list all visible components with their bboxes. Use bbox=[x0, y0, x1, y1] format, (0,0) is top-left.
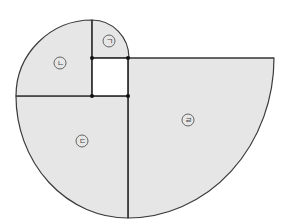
vertex-dot bbox=[126, 94, 130, 98]
region-rieul bbox=[128, 58, 274, 218]
center-square bbox=[92, 58, 128, 96]
label-text: ㄹ bbox=[185, 116, 192, 125]
vertex-dot bbox=[126, 56, 130, 60]
vertex-dot bbox=[90, 56, 94, 60]
spiral-diagram: ㄱ ㄴ ㄷ ㄹ bbox=[0, 0, 287, 224]
region-nieun bbox=[16, 20, 92, 96]
region-digeut bbox=[16, 96, 128, 218]
label-text: ㄴ bbox=[57, 59, 64, 68]
vertex-dot bbox=[90, 94, 94, 98]
label-text: ㄷ bbox=[79, 137, 86, 146]
label-text: ㄱ bbox=[106, 37, 113, 46]
